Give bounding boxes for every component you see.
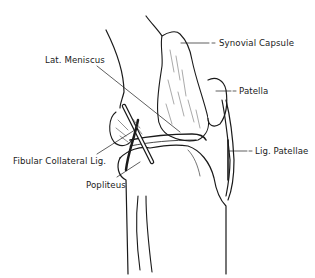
synovial-capsule-shape [157,32,208,141]
patella-shape [208,78,227,126]
label-fibular-collateral-lig: Fibular Collateral Lig. [13,156,106,166]
fibula-shape [137,196,140,270]
leader-popliteus [117,162,140,177]
label-synovial-capsule: Synovial Capsule [219,38,294,48]
label-lig-patellae: Lig. Patellae [255,146,308,156]
femur-left-contour [106,30,124,108]
label-lat-meniscus: Lat. Meniscus [45,55,105,65]
femur-right-contour [146,16,162,36]
label-popliteus: Popliteus [86,180,126,190]
label-patella: Patella [239,86,268,96]
